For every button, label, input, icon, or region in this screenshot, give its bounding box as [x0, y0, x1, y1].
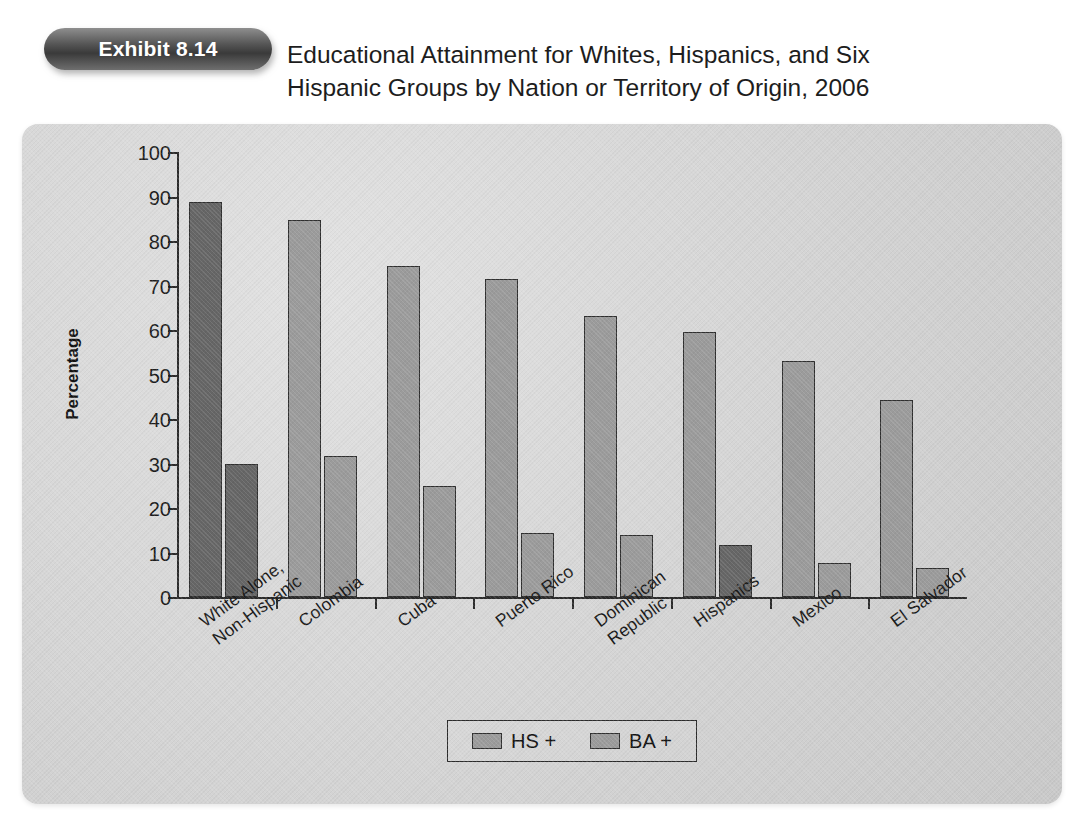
exhibit-title-line-2: Hispanic Groups by Nation or Territory o…	[287, 71, 1017, 104]
exhibit-title: Educational Attainment for Whites, Hispa…	[287, 38, 1017, 104]
legend-label-hs: HS +	[511, 730, 556, 753]
plot-area: Percentage 0102030405060708090100 White …	[177, 152, 967, 597]
y-axis-tick-label: 90	[149, 186, 171, 209]
legend-label-ba: BA +	[629, 730, 672, 753]
y-axis-tick-label: 20	[149, 498, 171, 521]
chart-panel: Percentage 0102030405060708090100 White …	[22, 124, 1062, 804]
y-axis-tick-label: 60	[149, 320, 171, 343]
exhibit-title-line-1: Educational Attainment for Whites, Hispa…	[287, 38, 1017, 71]
y-axis-title: Percentage	[63, 328, 83, 420]
legend-swatch-ba	[590, 733, 620, 749]
x-axis-group-separator	[473, 599, 475, 609]
bar	[485, 279, 518, 597]
bar	[683, 332, 716, 597]
y-axis-tick-label: 10	[149, 542, 171, 565]
y-axis-tick-label: 80	[149, 231, 171, 254]
y-axis-tick-label: 100	[138, 142, 171, 165]
y-axis-tick-label: 40	[149, 409, 171, 432]
x-axis-group-separator	[868, 599, 870, 609]
y-axis-tick-label: 70	[149, 275, 171, 298]
y-axis-tick-label: 0	[160, 587, 171, 610]
bar	[880, 400, 913, 597]
y-axis-line	[177, 152, 179, 597]
exhibit-number-label: Exhibit 8.14	[98, 37, 217, 61]
bar	[782, 361, 815, 597]
legend-swatch-hs	[472, 733, 502, 749]
exhibit-number-badge: Exhibit 8.14	[44, 28, 272, 70]
bar	[387, 266, 420, 597]
bar	[423, 486, 456, 597]
chart-legend: HS + BA +	[447, 720, 697, 762]
y-axis-tick-label: 50	[149, 364, 171, 387]
bar	[584, 316, 617, 597]
x-axis-group-separator	[770, 599, 772, 609]
x-axis-group-separator	[375, 599, 377, 609]
exhibit-header: Exhibit 8.14 Educational Attainment for …	[0, 0, 1082, 130]
x-axis-group-separator	[572, 599, 574, 609]
legend-item-ba: BA +	[590, 730, 672, 753]
bar	[288, 220, 321, 597]
legend-item-hs: HS +	[472, 730, 556, 753]
y-axis-tick-label: 30	[149, 453, 171, 476]
bar	[189, 202, 222, 597]
